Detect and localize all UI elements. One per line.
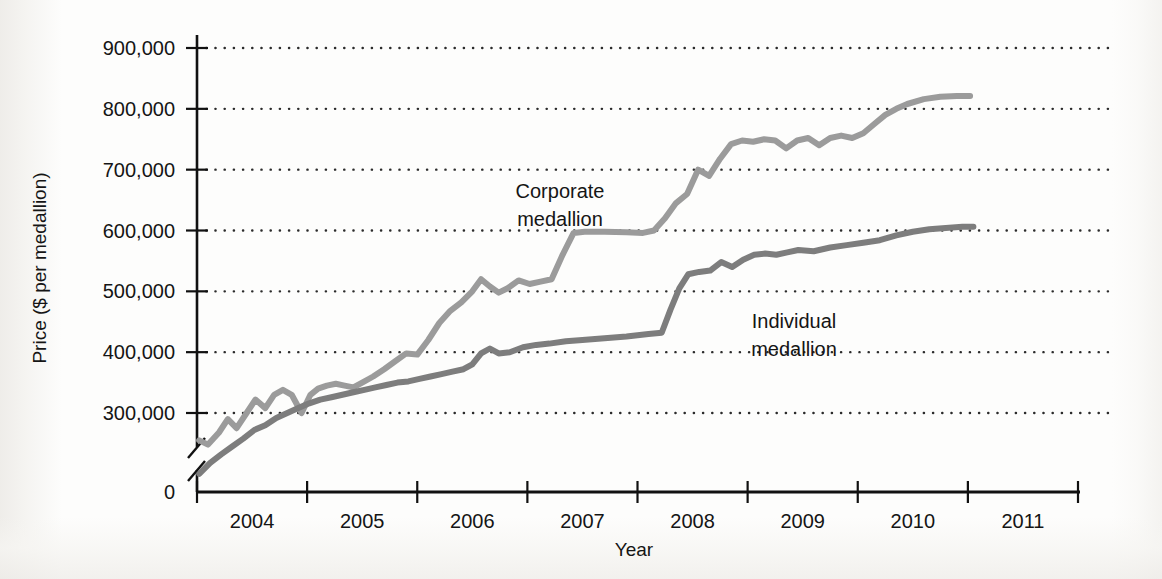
y-axis-tick-label: 500,000 bbox=[103, 280, 175, 302]
y-axis-tick-label: 800,000 bbox=[103, 98, 175, 120]
series-annotation: Corporatemedallion bbox=[516, 180, 605, 230]
chart-figure: 0300,000400,000500,000600,000700,000800,… bbox=[0, 0, 1162, 579]
y-axis-tick-labels: 0300,000400,000500,000600,000700,000800,… bbox=[103, 37, 175, 503]
data-series bbox=[199, 96, 973, 474]
series-line bbox=[199, 227, 973, 474]
x-axis-title: Year bbox=[615, 539, 654, 560]
y-axis-tick-label: 400,000 bbox=[103, 341, 175, 363]
x-axis-tick-label: 2006 bbox=[450, 510, 495, 532]
y-axis-title: Price ($ per medallion) bbox=[29, 172, 50, 363]
axis-lines bbox=[197, 35, 1080, 492]
y-axis-tick-label: 0 bbox=[164, 481, 175, 503]
x-axis-tick-label: 2008 bbox=[670, 510, 715, 532]
x-axis-tick-label: 2009 bbox=[780, 510, 825, 532]
line-chart: 0300,000400,000500,000600,000700,000800,… bbox=[0, 0, 1162, 579]
x-axis-tick-labels: 20042005200620072008200920102011 bbox=[230, 510, 1045, 532]
y-axis-tick-label: 300,000 bbox=[103, 402, 175, 424]
series-line bbox=[199, 96, 970, 445]
series-annotation: Individualmedallion bbox=[751, 310, 837, 360]
x-axis-tick-label: 2010 bbox=[891, 510, 936, 532]
y-axis-tick-label: 900,000 bbox=[103, 37, 175, 59]
x-axis-tick-label: 2004 bbox=[230, 510, 275, 532]
x-axis-tick-label: 2005 bbox=[340, 510, 385, 532]
y-axis-tick-label: 700,000 bbox=[103, 159, 175, 181]
y-axis-tick-label: 600,000 bbox=[103, 220, 175, 242]
x-axis-tick-label: 2007 bbox=[560, 510, 605, 532]
x-axis-tick-label: 2011 bbox=[1001, 510, 1044, 532]
